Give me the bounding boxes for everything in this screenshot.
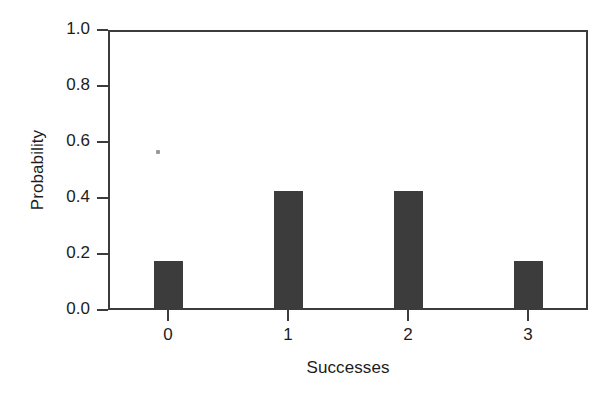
y-tick-label: 1.0 xyxy=(30,19,90,39)
y-axis-title: Probability xyxy=(28,70,48,270)
y-tick-mark xyxy=(97,141,108,143)
bar xyxy=(154,261,183,310)
bar xyxy=(394,191,423,310)
x-tick-mark xyxy=(527,310,529,321)
bar-chart-figure: Probability 0.00.20.40.60.81.0 0123 Succ… xyxy=(0,0,607,402)
x-axis-title: Successes xyxy=(108,358,588,378)
x-tick-label: 2 xyxy=(388,325,428,345)
x-tick-label: 3 xyxy=(508,325,548,345)
y-tick-mark xyxy=(97,29,108,31)
x-tick-label: 0 xyxy=(148,325,188,345)
bar xyxy=(274,191,303,310)
y-tick-label: 0.6 xyxy=(30,131,90,151)
y-tick-label: 0.8 xyxy=(30,75,90,95)
x-tick-mark xyxy=(287,310,289,321)
y-tick-label: 0.4 xyxy=(30,187,90,207)
y-tick-mark xyxy=(97,197,108,199)
y-tick-mark xyxy=(97,253,108,255)
x-tick-mark xyxy=(167,310,169,321)
bar xyxy=(514,261,543,310)
x-tick-mark xyxy=(407,310,409,321)
y-tick-label: 0.2 xyxy=(30,243,90,263)
y-tick-mark xyxy=(97,309,108,311)
scan-speck xyxy=(156,150,160,154)
y-tick-label: 0.0 xyxy=(30,299,90,319)
x-tick-label: 1 xyxy=(268,325,308,345)
y-tick-mark xyxy=(97,85,108,87)
